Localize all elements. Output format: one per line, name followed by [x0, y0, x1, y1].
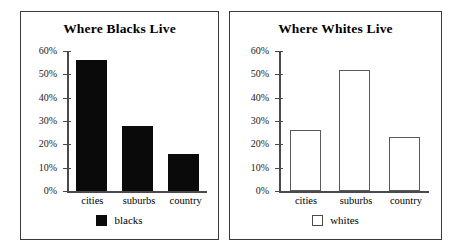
bar-slot-suburbs-whites — [330, 51, 379, 191]
x-label-suburbs-whites: suburbs — [331, 195, 381, 206]
legend-label-whites: whites — [330, 215, 359, 226]
plot-area-blacks: 60% 50% 40% 30% 20% 10% 0% — [67, 51, 207, 193]
y-tick-label-0-whites: 0% — [256, 186, 269, 196]
chart-panel-whites: Where Whites Live 60% 50% 40% 30% 20% 10… — [229, 11, 442, 240]
x-axis-line-blacks — [67, 191, 207, 193]
bar-cities-blacks[interactable] — [76, 60, 107, 191]
bar-slot-country-whites — [380, 51, 429, 191]
y-tick-label-20-blacks: 20% — [39, 139, 57, 149]
bar-slot-country-blacks — [161, 51, 207, 191]
y-tick-0-whites: 0% — [275, 191, 283, 192]
bar-slot-cities-whites — [281, 51, 330, 191]
y-tick-label-50-whites: 50% — [251, 69, 269, 79]
y-tick-label-10-blacks: 10% — [39, 163, 57, 173]
y-tick-label-30-whites: 30% — [251, 116, 269, 126]
bar-country-blacks[interactable] — [168, 154, 199, 191]
bar-country-whites[interactable] — [389, 137, 420, 191]
legend-blacks: blacks — [21, 215, 218, 226]
y-tick-label-60-blacks: 60% — [39, 46, 57, 56]
x-label-country-blacks: country — [162, 195, 209, 206]
x-category-labels-blacks: cities suburbs country — [69, 195, 209, 206]
y-tick-label-10-whites: 10% — [251, 163, 269, 173]
y-tick-0-blacks: 0% — [63, 191, 71, 192]
dual-bar-chart-figure: Where Blacks Live 60% 50% 40% 30% 20% 10… — [0, 0, 461, 252]
y-tick-label-60-whites: 60% — [251, 46, 269, 56]
chart-title-blacks: Where Blacks Live — [21, 21, 218, 37]
chart-panel-blacks: Where Blacks Live 60% 50% 40% 30% 20% 10… — [20, 11, 219, 240]
bar-suburbs-whites[interactable] — [339, 70, 370, 191]
bar-suburbs-blacks[interactable] — [122, 126, 153, 191]
y-tick-label-30-blacks: 30% — [39, 116, 57, 126]
bar-slot-suburbs-blacks — [115, 51, 161, 191]
legend-swatch-blacks-icon — [96, 215, 107, 226]
x-category-labels-whites: cities suburbs country — [281, 195, 431, 206]
x-axis-line-whites — [279, 191, 429, 193]
x-label-country-whites: country — [381, 195, 431, 206]
legend-whites: whites — [230, 215, 441, 226]
y-tick-label-20-whites: 20% — [251, 139, 269, 149]
bar-group-whites — [281, 51, 429, 191]
y-tick-label-40-whites: 40% — [251, 93, 269, 103]
chart-title-whites: Where Whites Live — [230, 21, 441, 37]
legend-swatch-whites-icon — [312, 215, 323, 226]
legend-label-blacks: blacks — [114, 215, 142, 226]
bar-slot-cities-blacks — [69, 51, 115, 191]
y-tick-label-40-blacks: 40% — [39, 93, 57, 103]
bar-cities-whites[interactable] — [290, 130, 321, 191]
plot-area-whites: 60% 50% 40% 30% 20% 10% 0% — [279, 51, 429, 193]
y-tick-label-0-blacks: 0% — [44, 186, 57, 196]
y-tick-label-50-blacks: 50% — [39, 69, 57, 79]
bar-group-blacks — [69, 51, 207, 191]
x-label-cities-blacks: cities — [69, 195, 116, 206]
x-label-cities-whites: cities — [281, 195, 331, 206]
x-label-suburbs-blacks: suburbs — [116, 195, 163, 206]
